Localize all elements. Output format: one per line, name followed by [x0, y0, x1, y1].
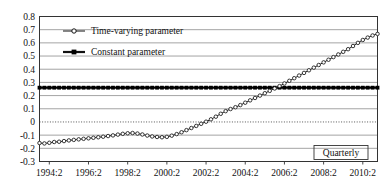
y-tick-label: 0 — [30, 117, 35, 127]
y-tick-label: 0.5 — [23, 51, 35, 61]
x-tick-label: 1996:2 — [75, 168, 102, 178]
x-tick-label: 1994:2 — [36, 168, 63, 178]
y-tick-label: 0.7 — [23, 25, 35, 35]
y-tick-label: -0.2 — [20, 144, 35, 154]
y-tick-label: 0.2 — [23, 91, 35, 101]
x-tick-label: 2010:2 — [350, 168, 377, 178]
series-constant-parameter — [38, 86, 380, 90]
chart-figure: 0.80.70.60.50.40.30.20.10-0.1-0.2-0.3 19… — [0, 0, 389, 187]
x-tick-label: 2004:2 — [232, 168, 259, 178]
quarterly-note: Quarterly — [314, 146, 368, 160]
x-tick-label: 2000:2 — [154, 168, 181, 178]
legend-item-label: Constant parameter — [91, 47, 166, 57]
y-tick-label: -0.3 — [20, 157, 35, 167]
x-tick-label: 2002:2 — [193, 168, 220, 178]
y-tick-label: 0.3 — [23, 78, 35, 88]
chart-canvas: 0.80.70.60.50.40.30.20.10-0.1-0.2-0.3 19… — [0, 0, 389, 187]
y-tick-label: 0.6 — [23, 38, 35, 48]
x-tick-label: 2006:2 — [271, 168, 298, 178]
x-axis-tick-labels: 1994:21996:21998:22000:22002:22004:22006… — [36, 168, 376, 178]
legend-item-label: Time-varying parameter — [91, 26, 184, 36]
x-tick-label: 2008:2 — [310, 168, 337, 178]
y-tick-label: 0.4 — [23, 65, 35, 75]
x-tick-label: 1998:2 — [114, 168, 141, 178]
y-tick-label: 0.8 — [23, 12, 35, 22]
y-axis-tick-labels: 0.80.70.60.50.40.30.20.10-0.1-0.2-0.3 — [20, 12, 35, 167]
y-tick-label: 0.1 — [23, 104, 35, 114]
quarterly-note-label: Quarterly — [323, 148, 360, 158]
y-tick-label: -0.1 — [20, 131, 35, 141]
chart-legend: Time-varying parameterConstant parameter — [63, 26, 184, 57]
